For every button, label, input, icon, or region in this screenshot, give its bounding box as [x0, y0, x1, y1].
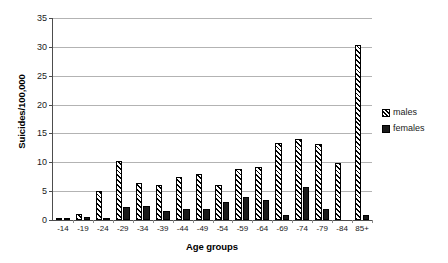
x-tick-label: -14 — [53, 225, 73, 233]
bar-males — [355, 45, 361, 220]
y-tick-label: 25 — [37, 71, 47, 80]
x-tick-mark — [312, 220, 313, 223]
x-tick-label: -84 — [332, 225, 352, 233]
x-tick-label: 85+ — [352, 225, 372, 233]
bar-males — [156, 185, 162, 220]
bar-females — [84, 217, 90, 220]
bar-group — [116, 18, 130, 220]
x-tick-mark — [93, 220, 94, 223]
plot-area: 05101520253035 -14-19-24-29-34-39-44-49-… — [52, 18, 372, 221]
legend-item-males: males — [382, 108, 425, 117]
x-tick-mark — [352, 220, 353, 223]
x-tick-mark — [153, 220, 154, 223]
y-tick-mark — [49, 220, 53, 221]
bar-males — [295, 139, 301, 220]
x-tick-mark — [173, 220, 174, 223]
bar-males — [315, 144, 321, 220]
bar-females — [363, 215, 369, 220]
filled-square-icon — [382, 125, 390, 133]
bar-males — [76, 214, 82, 220]
x-tick-mark — [272, 220, 273, 223]
bar-males — [136, 183, 142, 220]
bar-group — [96, 18, 110, 220]
bar-males — [275, 143, 281, 220]
bar-group — [156, 18, 170, 220]
bar-group — [176, 18, 190, 220]
bar-females — [323, 209, 329, 220]
bar-females — [64, 218, 70, 220]
bar-females — [283, 215, 289, 220]
y-tick-label: 35 — [37, 14, 47, 23]
y-tick-label: 20 — [37, 100, 47, 109]
x-tick-mark — [252, 220, 253, 223]
y-tick-label: 30 — [37, 42, 47, 51]
x-tick-mark — [372, 220, 373, 223]
x-tick-mark — [133, 220, 134, 223]
bar-group — [235, 18, 249, 220]
bar-group — [196, 18, 210, 220]
bar-females — [223, 202, 229, 220]
x-tick-mark — [332, 220, 333, 223]
y-tick-label: 0 — [42, 216, 47, 225]
bar-group — [315, 18, 329, 220]
x-tick-label: -44 — [173, 225, 193, 233]
x-tick-label: -74 — [292, 225, 312, 233]
x-tick-mark — [232, 220, 233, 223]
x-axis-title: Age groups — [52, 241, 372, 252]
bar-females — [183, 209, 189, 220]
x-tick-label: -59 — [232, 225, 252, 233]
bar-females — [303, 187, 309, 220]
y-tick-label: 10 — [37, 158, 47, 167]
bar-group — [56, 18, 70, 220]
chart-legend: malesfemales — [382, 108, 425, 140]
bar-females — [123, 207, 129, 220]
suicides-by-age-bar-chart: Suicides/100,000 05101520253035 -14-19-2… — [0, 0, 448, 263]
x-tick-label: -29 — [113, 225, 133, 233]
bar-males — [215, 185, 221, 220]
bar-males — [196, 174, 202, 220]
legend-label: males — [393, 108, 417, 117]
x-tick-mark — [193, 220, 194, 223]
bar-females — [103, 218, 109, 220]
x-tick-mark — [73, 220, 74, 223]
x-tick-label: -49 — [193, 225, 213, 233]
bar-males — [255, 167, 261, 220]
bar-males — [56, 218, 62, 220]
bar-group — [76, 18, 90, 220]
y-tick-label: 5 — [42, 187, 47, 196]
bar-group — [275, 18, 289, 220]
bar-group — [295, 18, 309, 220]
bar-males — [96, 191, 102, 220]
x-tick-label: -19 — [73, 225, 93, 233]
bar-group — [355, 18, 369, 220]
bar-females — [143, 206, 149, 220]
bar-group — [255, 18, 269, 220]
bar-group — [335, 18, 349, 220]
bar-males — [116, 161, 122, 220]
x-tick-mark — [113, 220, 114, 223]
y-tick-label: 15 — [37, 129, 47, 138]
bar-females — [263, 200, 269, 220]
bar-group — [215, 18, 229, 220]
x-tick-label: -79 — [312, 225, 332, 233]
bar-males — [176, 177, 182, 220]
hatched-square-icon — [382, 109, 390, 117]
bar-males — [335, 163, 341, 220]
x-tick-label: -39 — [153, 225, 173, 233]
bars-layer — [53, 18, 372, 220]
bar-males — [235, 169, 241, 220]
x-tick-label: -69 — [272, 225, 292, 233]
y-axis-title: Suicides/100,000 — [16, 47, 27, 177]
bar-females — [243, 197, 249, 220]
legend-item-females: females — [382, 124, 425, 133]
legend-label: females — [393, 124, 425, 133]
x-tick-mark — [292, 220, 293, 223]
bar-females — [203, 209, 209, 220]
bar-females — [163, 211, 169, 220]
x-tick-label: -54 — [213, 225, 233, 233]
x-tick-label: -64 — [252, 225, 272, 233]
x-tick-label: -24 — [93, 225, 113, 233]
bar-group — [136, 18, 150, 220]
x-tick-mark — [213, 220, 214, 223]
x-tick-label: -34 — [133, 225, 153, 233]
